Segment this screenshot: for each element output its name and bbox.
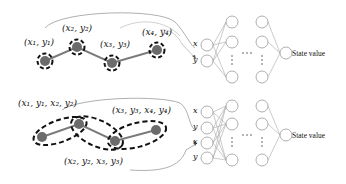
top-input-neuron-x [201,39,213,51]
segment-label-2: (x₂, y₂, x₃, y₃) [64,156,123,166]
bottom-input-label-3: x [193,137,198,146]
bottom-input-label-2: y [193,122,198,131]
top-input-label-y: y [193,55,198,64]
point-3 [105,56,120,71]
top-output-neuron [280,47,292,59]
bottom-input-label-4: y [193,152,198,161]
top-neural-network [213,22,280,77]
diagram-canvas [0,0,346,184]
segment-label-1: (x₁, y₁, x₂, y₂) [18,98,77,108]
top-input-neuron-y [201,55,213,67]
segment-label-3: (x₃, y₃, x₄, y₄) [112,105,171,115]
top-output-label: State value [292,49,325,58]
point-2 [70,40,85,55]
bottom-neural-network [213,106,280,160]
point-label-3: (x₃, y₃) [100,39,130,49]
point-label-1: (x₁, y₁) [24,37,54,47]
top-input-label-x: x [193,39,198,48]
point-4 [150,43,165,58]
bottom-input-label-1: x [193,106,198,115]
point-1 [38,54,53,69]
bottom-output-neuron [280,129,292,141]
point-label-2: (x₂, y₂) [62,23,92,33]
point-label-4: (x₄, y₄) [142,27,172,37]
bottom-output-label: State value [292,131,325,140]
